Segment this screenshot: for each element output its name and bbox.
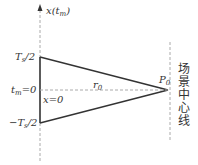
p0-label: P0 [159, 75, 170, 87]
tick-top-label: Ts/2 [15, 52, 35, 64]
upper-slant-line [40, 57, 168, 90]
r0-label: r0 [93, 80, 102, 92]
scene-center-line-label: 场景中心线 [176, 62, 188, 127]
tick-bottom-label: −Ts/2 [9, 118, 37, 130]
axis-arrow-icon [38, 4, 43, 11]
axis-label: x(tm) [46, 6, 70, 18]
x-zero-label: x=0 [43, 95, 63, 105]
tick-zero-label: tm=0 [11, 85, 36, 97]
